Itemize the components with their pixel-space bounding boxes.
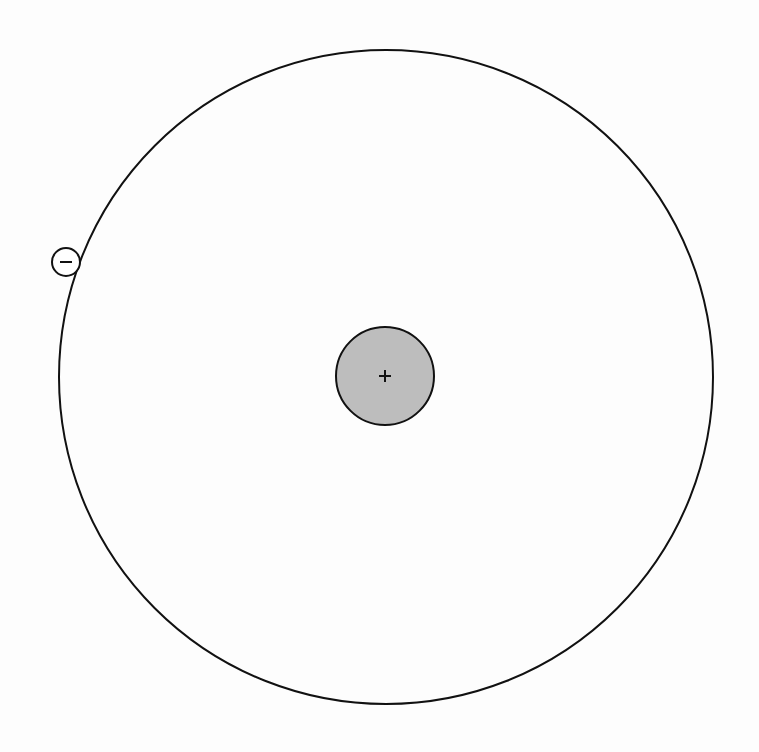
electron	[52, 248, 80, 276]
atom-diagram	[0, 0, 759, 752]
nucleus	[336, 327, 434, 425]
